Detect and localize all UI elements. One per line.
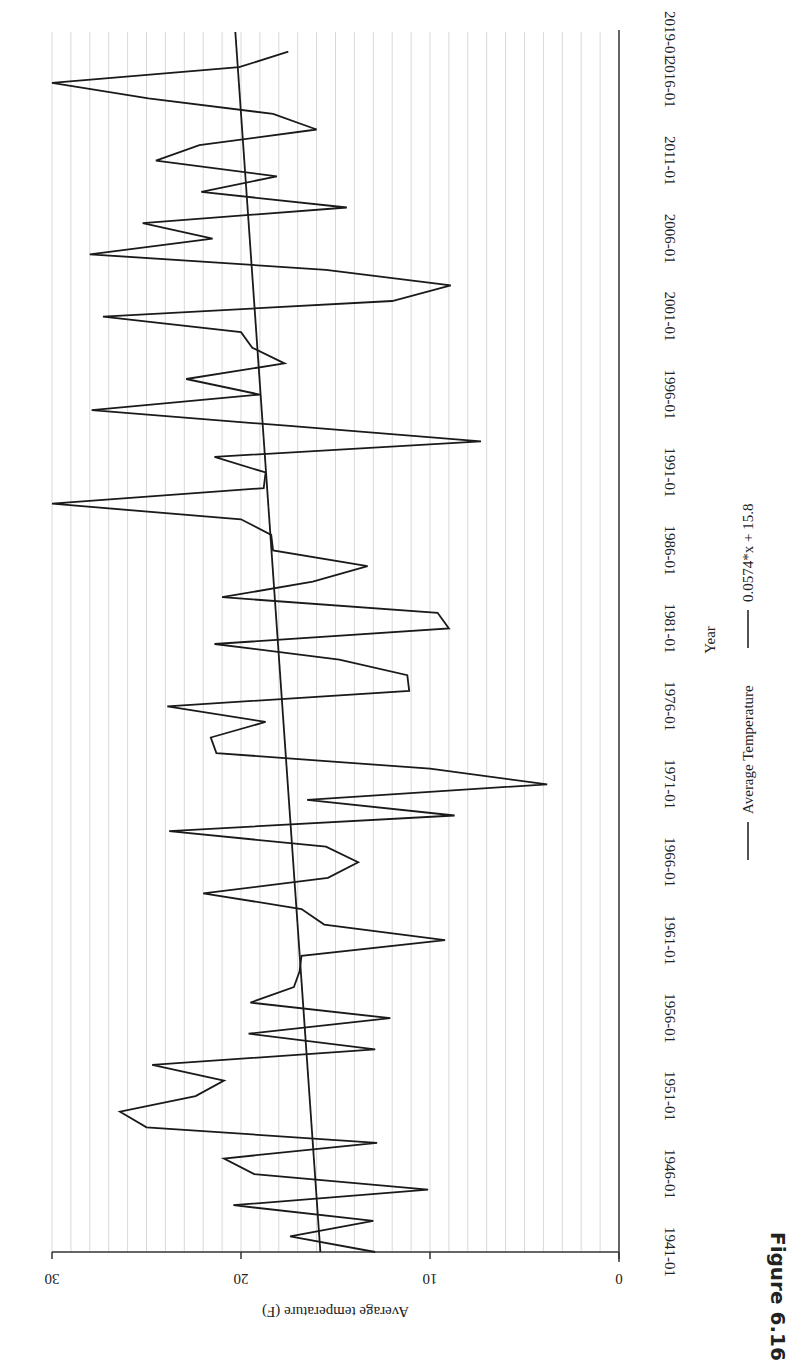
x-tick-label: 1991-01 <box>662 448 678 498</box>
x-tick-label: 1941-01 <box>662 1227 678 1277</box>
y-tick-label: 0 <box>615 1271 623 1287</box>
x-tick-label: 1976-01 <box>662 681 678 731</box>
x-tick-label: 1951-01 <box>662 1071 678 1121</box>
x-tick-label: 1956-01 <box>662 993 678 1043</box>
x-tick-label: 1961-01 <box>662 915 678 965</box>
x-tick-label: 2011-01 <box>662 136 678 185</box>
x-tick-label: 1986-01 <box>662 525 678 575</box>
x-tick-label: 2019-01 <box>662 11 678 61</box>
y-axis-title: Average temperature (F) <box>262 1303 409 1320</box>
legend-trend-label: 0.0574*x + 15.8 <box>740 504 756 602</box>
y-tick-label: 30 <box>45 1271 60 1287</box>
x-tick-label: 1946-01 <box>662 1149 678 1199</box>
y-tick-label: 10 <box>423 1271 438 1287</box>
legend: Average Temperature0.0574*x + 15.8 <box>740 504 756 860</box>
x-axis-title: Year <box>702 626 718 654</box>
temperature-series-line <box>52 52 547 1252</box>
x-tick-label: 1971-01 <box>662 759 678 809</box>
x-tick-label: 2001-01 <box>662 292 678 342</box>
grid-lines <box>52 32 600 1252</box>
x-tick-label: 1996-01 <box>662 370 678 420</box>
figure-caption: Figure 6.16 <box>766 1232 790 1361</box>
y-tick-label: 20 <box>234 1271 249 1287</box>
x-tick-label: 2006-01 <box>662 214 678 264</box>
x-tick-label: 1966-01 <box>662 837 678 887</box>
legend-series-label: Average Temperature <box>740 685 756 814</box>
x-tick-label: 2016-01 <box>662 58 678 108</box>
x-tick-label: 1981-01 <box>662 603 678 653</box>
